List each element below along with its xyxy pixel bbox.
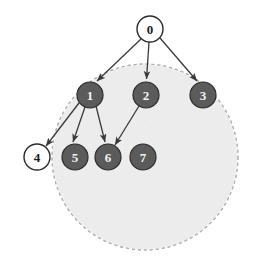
node-6-label: 6 [105, 150, 112, 165]
node-5[interactable]: 5 [62, 144, 88, 170]
graph-figure: 0 1 2 3 4 5 [0, 0, 261, 267]
node-0-label: 0 [147, 22, 154, 37]
node-1-label: 1 [87, 88, 94, 103]
node-7-label: 7 [140, 150, 147, 165]
node-7[interactable]: 7 [130, 144, 156, 170]
node-4[interactable]: 4 [24, 144, 50, 170]
node-5-label: 5 [72, 150, 79, 165]
node-2[interactable]: 2 [133, 82, 159, 108]
node-4-label: 4 [34, 150, 41, 165]
node-1[interactable]: 1 [77, 82, 103, 108]
node-3[interactable]: 3 [190, 82, 216, 108]
graph-canvas: 0 1 2 3 4 5 [0, 0, 261, 267]
node-0[interactable]: 0 [137, 16, 163, 42]
node-3-label: 3 [200, 88, 207, 103]
node-2-label: 2 [143, 88, 150, 103]
node-6[interactable]: 6 [95, 144, 121, 170]
